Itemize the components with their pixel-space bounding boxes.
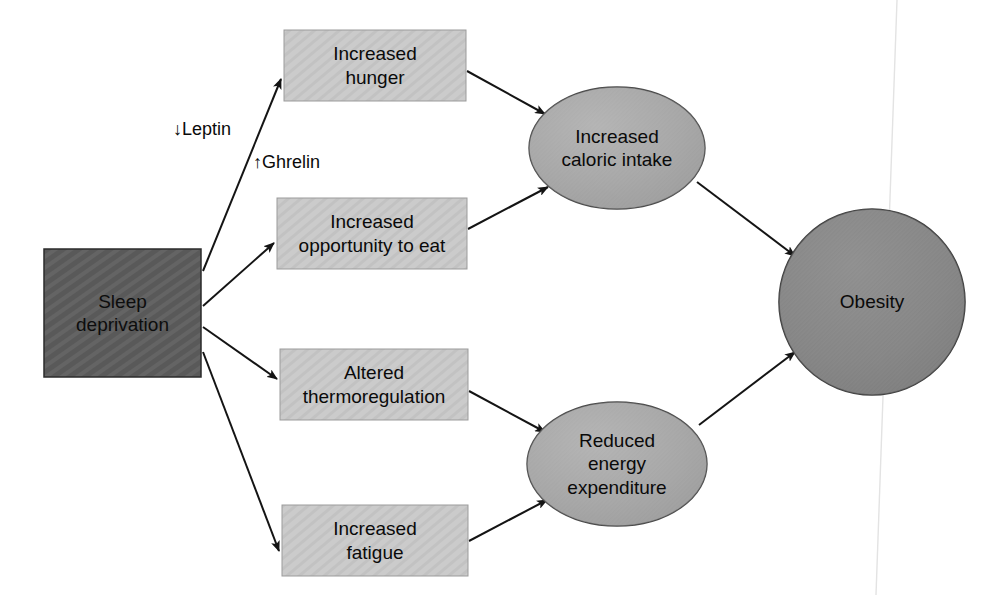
edge-sleep-to-opportunity (203, 243, 274, 306)
node-increased-opportunity-to-eat[interactable] (277, 198, 467, 269)
node-obesity-texture (779, 209, 965, 395)
edge-sleep-to-thermoregulation (203, 327, 277, 379)
flow-diagram: Sleep deprivation Increased hunger Incre… (0, 0, 1000, 595)
edge-label-leptin: ↓Leptin (173, 119, 231, 140)
edge-energy-expenditure-to-obesity (699, 352, 795, 425)
edge-fatigue-to-energy-expenditure (469, 500, 547, 541)
node-reduced-energy-expenditure-texture (527, 402, 707, 526)
edge-sleep-to-fatigue (203, 352, 279, 551)
edge-hunger-to-caloric-intake (467, 71, 545, 114)
edge-sleep-to-hunger (203, 79, 281, 271)
edge-caloric-intake-to-obesity (697, 182, 795, 256)
edge-thermoregulation-to-energy-expenditure (469, 391, 545, 432)
node-increased-caloric-intake-texture (529, 87, 705, 209)
diagram-canvas (0, 0, 1000, 595)
node-increased-fatigue[interactable] (282, 505, 468, 576)
node-sleep-deprivation[interactable] (44, 249, 201, 377)
node-altered-thermoregulation[interactable] (280, 349, 468, 420)
edges-group (203, 71, 795, 551)
edge-opportunity-to-caloric-intake (468, 187, 548, 229)
edge-label-ghrelin: ↑Ghrelin (253, 152, 320, 173)
node-increased-hunger[interactable] (284, 30, 466, 101)
nodes-group (44, 30, 965, 576)
